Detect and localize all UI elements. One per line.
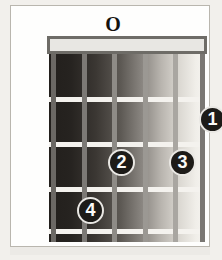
string-1 bbox=[51, 54, 56, 242]
finger-dot-1-a: 1 bbox=[199, 106, 222, 133]
fretboard-surface: 4 2 3 1 1 bbox=[49, 54, 205, 242]
fret-line-4 bbox=[49, 229, 205, 234]
string-5 bbox=[173, 54, 178, 242]
finger-dot-2: 2 bbox=[108, 149, 135, 176]
fret-line-3 bbox=[49, 187, 205, 192]
chord-diagram-screenshot: O 4 2 3 1 1 bbox=[0, 0, 222, 260]
string-6 bbox=[200, 54, 205, 242]
finger-dot-4: 4 bbox=[77, 197, 104, 224]
fret-line-1 bbox=[49, 97, 205, 102]
string-3 bbox=[112, 54, 117, 242]
diagram-card: O 4 2 3 1 1 bbox=[10, 5, 210, 247]
finger-dot-3: 3 bbox=[169, 149, 196, 176]
fretboard: 4 2 3 1 1 bbox=[47, 36, 207, 242]
open-string-marker: O bbox=[99, 12, 127, 36]
string-4 bbox=[143, 54, 148, 242]
page-shadow bbox=[10, 247, 210, 255]
fret-line-2 bbox=[49, 142, 205, 147]
nut bbox=[47, 36, 207, 54]
